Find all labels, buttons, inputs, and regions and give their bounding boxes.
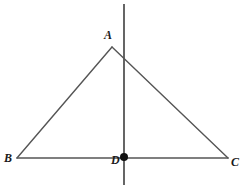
vertex-label-c: C: [231, 156, 239, 168]
geometry-canvas: [0, 0, 245, 190]
point-D-dot: [120, 153, 128, 161]
side-AB: [17, 47, 112, 158]
geometry-figure: A B C D: [0, 0, 245, 190]
vertex-label-d: D: [111, 154, 120, 166]
side-AC: [112, 47, 228, 158]
vertex-label-b: B: [4, 152, 12, 164]
vertex-label-a: A: [104, 29, 112, 41]
